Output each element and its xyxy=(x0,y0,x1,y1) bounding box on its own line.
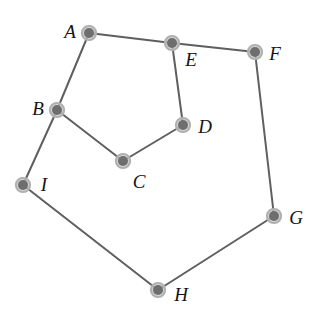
graph-edge-a-b xyxy=(57,33,89,110)
graph-diagram-canvas: ABCDEFGHI xyxy=(0,0,318,329)
node-label-c: C xyxy=(133,172,146,191)
node-core-e xyxy=(167,38,177,48)
node-core-f xyxy=(250,47,260,57)
graph-edge-h-g xyxy=(158,216,274,290)
node-label-h: H xyxy=(174,285,188,304)
graph-edge-d-c xyxy=(123,125,183,161)
node-label-d: D xyxy=(198,117,212,136)
node-label-g: G xyxy=(289,208,303,227)
node-label-a: A xyxy=(64,22,76,41)
graph-node-g[interactable] xyxy=(265,207,283,225)
node-label-b: B xyxy=(32,99,44,118)
graph-edge-c-b xyxy=(57,110,123,161)
graph-node-h[interactable] xyxy=(149,281,167,299)
graph-node-i[interactable] xyxy=(14,176,32,194)
graph-edge-i-h xyxy=(23,185,158,290)
graph-edge-e-d xyxy=(172,43,183,125)
node-core-a xyxy=(84,28,94,38)
graph-edge-f-g xyxy=(255,52,274,216)
graph-node-a[interactable] xyxy=(80,24,98,42)
node-layer xyxy=(14,24,283,299)
graph-node-f[interactable] xyxy=(246,43,264,61)
graph-node-c[interactable] xyxy=(114,152,132,170)
node-core-h xyxy=(153,285,163,295)
node-core-b xyxy=(52,105,62,115)
graph-node-b[interactable] xyxy=(48,101,66,119)
graph-node-e[interactable] xyxy=(163,34,181,52)
node-core-d xyxy=(178,120,188,130)
node-label-f: F xyxy=(269,44,281,63)
node-core-g xyxy=(269,211,279,221)
edge-layer xyxy=(23,33,274,290)
node-label-i: I xyxy=(41,175,47,194)
node-core-i xyxy=(18,180,28,190)
node-label-e: E xyxy=(185,50,197,69)
graph-edge-a-e xyxy=(89,33,172,43)
graph-node-d[interactable] xyxy=(174,116,192,134)
node-core-c xyxy=(118,156,128,166)
